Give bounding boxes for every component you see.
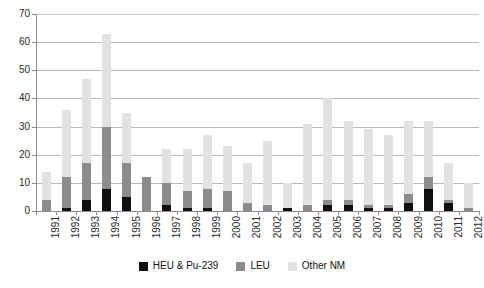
bar-column-2010[interactable] xyxy=(424,14,433,211)
x-axis-tick-label-2012: 2012 xyxy=(473,216,484,238)
bar-column-1992[interactable] xyxy=(62,14,71,211)
bar-segment-leu-1993 xyxy=(82,163,91,200)
bar-segment-leu-1994 xyxy=(102,127,111,189)
x-axis-tick-label-1992: 1992 xyxy=(70,216,81,238)
bar-segment-other-nm-1992 xyxy=(62,110,71,178)
chart-legend: HEU & Pu-239LEUOther NM xyxy=(0,258,484,274)
bar-column-2006[interactable] xyxy=(344,14,353,211)
x-axis-tick-label-1991: 1991 xyxy=(50,216,61,238)
bar-segment-leu-1999 xyxy=(203,189,212,209)
x-axis-tick-mark-2006 xyxy=(338,211,339,215)
bar-stack-2001 xyxy=(243,163,252,211)
bar-segment-heu-pu-239-1993 xyxy=(82,200,91,211)
bar-column-2004[interactable] xyxy=(303,14,312,211)
bar-column-1997[interactable] xyxy=(162,14,171,211)
bar-stack-2003 xyxy=(283,183,292,211)
x-axis-tick-mark-2008 xyxy=(378,211,379,215)
legend-item-leu[interactable]: LEU xyxy=(236,261,269,271)
x-axis-tick-label-2002: 2002 xyxy=(272,216,283,238)
bar-column-1999[interactable] xyxy=(203,14,212,211)
bar-segment-other-nm-2006 xyxy=(344,121,353,200)
bar-segment-other-nm-1991 xyxy=(42,172,51,200)
x-axis-tick-mark-1992 xyxy=(56,211,57,215)
bar-column-2007[interactable] xyxy=(364,14,373,211)
bar-segment-leu-1997 xyxy=(162,183,171,206)
x-axis-tick-label-1999: 1999 xyxy=(211,216,222,238)
x-axis-tick-mark-2003 xyxy=(278,211,279,215)
bar-series-group xyxy=(36,14,479,211)
x-axis-tick-mark-2001 xyxy=(237,211,238,215)
bar-stack-1996 xyxy=(142,177,151,211)
y-axis-labels: 010203040506070 xyxy=(0,0,34,288)
bar-segment-heu-pu-239-1994 xyxy=(102,189,111,212)
bar-segment-leu-1998 xyxy=(183,191,192,208)
bar-column-2009[interactable] xyxy=(404,14,413,211)
bar-column-2012[interactable] xyxy=(464,14,473,211)
x-axis-tick-mark-1991 xyxy=(36,211,37,215)
legend-swatch-heu-pu239 xyxy=(139,262,148,271)
bar-stack-1998 xyxy=(183,149,192,211)
bar-column-2005[interactable] xyxy=(323,14,332,211)
x-axis-tick-label-1998: 1998 xyxy=(191,216,202,238)
legend-item-other-nm[interactable]: Other NM xyxy=(288,261,345,271)
legend-item-heu-pu-239[interactable]: HEU & Pu-239 xyxy=(139,261,219,271)
legend-swatch-other-nm xyxy=(288,262,297,271)
bar-segment-other-nm-1997 xyxy=(162,149,171,183)
bar-stack-1991 xyxy=(42,172,51,211)
x-axis-tick-mark-1994 xyxy=(96,211,97,215)
bar-stack-2010 xyxy=(424,121,433,211)
y-axis-tick-label-0: 0 xyxy=(0,206,30,216)
bar-column-2011[interactable] xyxy=(444,14,453,211)
bar-segment-leu-2001 xyxy=(243,203,252,211)
legend-label-1: LEU xyxy=(250,261,269,271)
legend-swatch-leu xyxy=(236,262,245,271)
bar-column-1996[interactable] xyxy=(142,14,151,211)
bar-column-1994[interactable] xyxy=(102,14,111,211)
bar-column-1991[interactable] xyxy=(42,14,51,211)
bar-stack-2004 xyxy=(303,124,312,211)
bar-segment-other-nm-1995 xyxy=(122,113,131,164)
x-axis-tick-mark-2010 xyxy=(419,211,420,215)
bar-segment-other-nm-2011 xyxy=(444,163,453,200)
bar-stack-1995 xyxy=(122,113,131,211)
y-axis-tick-label-60: 60 xyxy=(0,37,30,47)
bar-stack-1994 xyxy=(102,34,111,211)
bar-column-2008[interactable] xyxy=(384,14,393,211)
bar-segment-other-nm-1999 xyxy=(203,135,212,188)
bar-segment-leu-1995 xyxy=(122,163,131,197)
x-axis-tick-label-2001: 2001 xyxy=(251,216,262,238)
bar-column-1993[interactable] xyxy=(82,14,91,211)
bar-column-2001[interactable] xyxy=(243,14,252,211)
bar-segment-other-nm-2002 xyxy=(263,141,272,206)
bar-segment-other-nm-1994 xyxy=(102,34,111,127)
x-axis-tick-label-1995: 1995 xyxy=(131,216,142,238)
x-axis-tick-label-1996: 1996 xyxy=(151,216,162,238)
bar-segment-other-nm-2004 xyxy=(303,124,312,206)
y-axis-tick-label-10: 10 xyxy=(0,178,30,188)
bar-stack-1997 xyxy=(162,149,171,211)
bar-segment-other-nm-2009 xyxy=(404,121,413,194)
x-axis-tick-mark-2007 xyxy=(358,211,359,215)
bar-column-1995[interactable] xyxy=(122,14,131,211)
bar-stack-2006 xyxy=(344,121,353,211)
x-axis-tick-mark-2002 xyxy=(258,211,259,215)
x-axis-tick-mark-end xyxy=(479,211,480,215)
bar-column-2003[interactable] xyxy=(283,14,292,211)
x-axis-tick-label-2010: 2010 xyxy=(433,216,444,238)
bar-column-2002[interactable] xyxy=(263,14,272,211)
x-axis-tick-label-2011: 2011 xyxy=(453,216,464,238)
bar-column-1998[interactable] xyxy=(183,14,192,211)
x-axis-tick-mark-2012 xyxy=(459,211,460,215)
bar-segment-other-nm-2000 xyxy=(223,146,232,191)
bar-stack-2009 xyxy=(404,121,413,211)
bar-segment-heu-pu-239-2011 xyxy=(444,203,453,211)
bar-column-2000[interactable] xyxy=(223,14,232,211)
bar-segment-other-nm-2008 xyxy=(384,135,393,205)
x-axis-tick-label-2005: 2005 xyxy=(332,216,343,238)
bar-stack-1999 xyxy=(203,135,212,211)
y-axis-tick-label-70: 70 xyxy=(0,9,30,19)
bar-segment-other-nm-1998 xyxy=(183,149,192,191)
bar-segment-other-nm-2005 xyxy=(323,98,332,199)
bar-segment-heu-pu-239-2010 xyxy=(424,189,433,212)
y-axis-tick-label-40: 40 xyxy=(0,93,30,103)
